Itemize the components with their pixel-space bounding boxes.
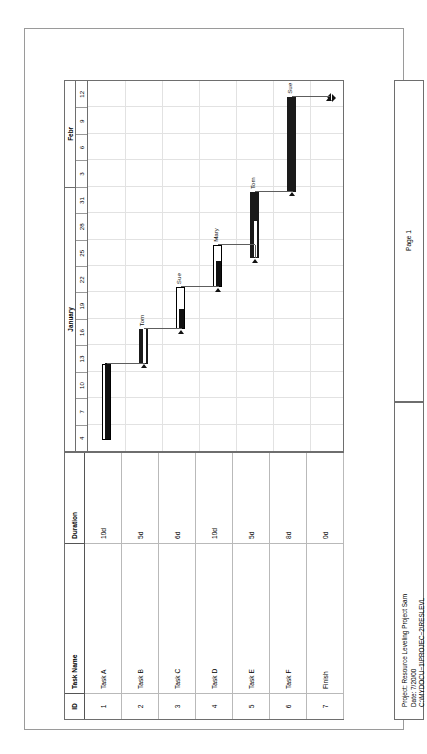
timescale-tick-19: 19 xyxy=(76,292,87,318)
table-row[interactable]: 5Task E5d xyxy=(233,453,270,719)
gridline-vertical xyxy=(88,318,343,319)
gantt-progress-bar xyxy=(179,309,184,328)
dependency-link-vertical xyxy=(107,363,144,364)
project-info-text: Project: Resource Leveling Project Sam D… xyxy=(401,594,427,707)
gantt-grid: TomSueMaryTomSue xyxy=(88,81,343,451)
project-info-panel: Project: Resource Leveling Project Sam D… xyxy=(394,402,424,720)
dependency-link-vertical xyxy=(292,96,329,97)
dependency-link-vertical xyxy=(144,328,181,329)
project-info-line3: C:\MYDOCU~1\PROJEC~2\RESLEVL xyxy=(418,594,427,707)
dependency-arrow-icon xyxy=(215,288,221,292)
cell-duration: 5d xyxy=(233,452,269,543)
cell-duration: 10d xyxy=(85,452,121,543)
cell-id: 6 xyxy=(270,693,306,719)
footer-spacer xyxy=(350,80,394,720)
gridline-vertical xyxy=(88,424,343,425)
cell-task-name: Task C xyxy=(159,543,195,693)
cell-id: 2 xyxy=(122,693,158,719)
dependency-arrow-icon xyxy=(289,193,295,197)
gridline-horizontal xyxy=(125,81,126,451)
page-number-panel: Page 1 xyxy=(394,80,424,402)
timescale-minor: 47101316192225283136912 xyxy=(76,81,88,451)
cell-task-name: Task A xyxy=(85,543,121,693)
cell-id: 5 xyxy=(233,693,269,719)
dependency-link-vertical xyxy=(181,286,218,287)
table-header-row: ID Task Name Duration xyxy=(65,453,85,719)
gantt-bar-task-a[interactable] xyxy=(102,364,111,441)
table-row[interactable]: 2Task B5d xyxy=(122,453,159,719)
gantt-progress-bar xyxy=(143,328,146,362)
timescale-tick-10: 10 xyxy=(76,372,87,398)
gridline-vertical xyxy=(88,371,343,372)
gridline-vertical xyxy=(88,397,343,398)
cell-duration: 8d xyxy=(270,452,306,543)
cell-id: 3 xyxy=(159,693,195,719)
timescale-major-febr: Febr xyxy=(65,81,75,187)
timescale-tick-31: 31 xyxy=(76,187,87,213)
page-label: Page 1 xyxy=(405,230,412,251)
gridline-horizontal xyxy=(236,81,237,451)
cell-duration: 6d xyxy=(159,452,195,543)
gantt-progress-bar xyxy=(216,261,221,286)
table-row[interactable]: 4Task D10d xyxy=(196,453,233,719)
gridline-vertical xyxy=(88,159,343,160)
gantt-resource-label-sue: Sue xyxy=(175,273,182,284)
table-row[interactable]: 1Task A10d xyxy=(85,453,122,719)
dependency-arrow-icon xyxy=(141,364,147,368)
timescale-tick-25: 25 xyxy=(76,240,87,266)
gantt-bar-task-c[interactable] xyxy=(176,287,185,329)
timescale-tick-13: 13 xyxy=(76,345,87,371)
cell-id: 1 xyxy=(85,693,121,719)
gantt-resource-label-tom: Tom xyxy=(138,315,145,327)
cell-task-name: Task D xyxy=(196,543,232,693)
project-info-line1: Project: Resource Leveling Project Sam xyxy=(401,594,410,707)
table-row[interactable]: 6Task F8d xyxy=(270,453,307,719)
cell-task-name: Task E xyxy=(233,543,269,693)
gridline-horizontal xyxy=(273,81,274,451)
timescale-tick-6: 6 xyxy=(76,134,87,160)
gantt-resource-label-mary: Mary xyxy=(212,228,219,242)
cell-task-name: Task B xyxy=(122,543,158,693)
column-header-taskname: Task Name xyxy=(65,543,84,693)
gantt-bar-task-f[interactable] xyxy=(287,97,296,192)
timescale-tick-9: 9 xyxy=(76,107,87,133)
gridline-vertical xyxy=(88,186,343,187)
dependency-arrow-icon xyxy=(326,97,332,101)
dependency-arrow-icon xyxy=(252,259,258,263)
dependency-link-horizontal xyxy=(255,245,256,258)
cell-task-name: Finish xyxy=(307,543,343,693)
timescale-tick-3: 3 xyxy=(76,160,87,186)
dependency-link-vertical xyxy=(255,191,292,192)
project-info-line2: Date: 7/20/00 xyxy=(410,594,419,707)
gantt-chart-area: JanuaryFebr 47101316192225283136912 TomS… xyxy=(64,80,344,452)
timescale-tick-16: 16 xyxy=(76,319,87,345)
timescale-tick-12: 12 xyxy=(76,81,87,107)
gantt-sheet: ID Task Name Duration 1Task A10d2Task B5… xyxy=(24,28,402,728)
dependency-link-vertical xyxy=(218,244,255,245)
timescale-tick-4: 4 xyxy=(76,425,87,451)
gantt-resource-label-sue: Sue xyxy=(286,83,293,94)
cell-duration: 0d xyxy=(307,452,343,543)
gridline-horizontal xyxy=(162,81,163,451)
timescale-major-january: January xyxy=(65,187,75,451)
gridline-vertical xyxy=(88,212,343,213)
timescale-tick-22: 22 xyxy=(76,266,87,292)
cell-task-name: Task F xyxy=(270,543,306,693)
column-header-duration: Duration xyxy=(65,452,84,543)
timescale-major: JanuaryFebr xyxy=(65,81,76,451)
cell-id: 4 xyxy=(196,693,232,719)
gridline-vertical xyxy=(88,106,343,107)
cell-duration: 5d xyxy=(122,452,158,543)
gantt-bar-task-b[interactable] xyxy=(139,329,148,363)
gantt-resource-label-tom: Tom xyxy=(249,177,256,189)
gridline-horizontal xyxy=(310,81,311,451)
gantt-bar-task-d[interactable] xyxy=(213,245,222,287)
gantt-progress-bar xyxy=(105,363,110,440)
table-row[interactable]: 7Finish0d xyxy=(307,453,344,719)
task-table: ID Task Name Duration 1Task A10d2Task B5… xyxy=(64,452,344,720)
cell-duration: 10d xyxy=(196,452,232,543)
dependency-arrow-icon xyxy=(178,330,184,334)
table-row[interactable]: 3Task C6d xyxy=(159,453,196,719)
column-header-id: ID xyxy=(65,693,84,719)
